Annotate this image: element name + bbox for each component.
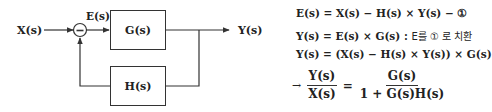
input-label: X(s) (17, 24, 42, 37)
error-label: E(s) (86, 10, 110, 22)
block-diagram: X(s) E(s) G(s) H(s) Y(s) (0, 0, 280, 112)
equals-sign: = (343, 79, 353, 93)
feedback-branch-line (166, 30, 199, 86)
equation-output-math: Y(s) = E(s) × G(s) : (296, 30, 411, 42)
feedback-return-line (80, 38, 110, 86)
lhs-fraction: Y(s) X(s) (306, 69, 337, 102)
rhs-numerator: G(s) (386, 69, 418, 86)
equation-error: E(s) = X(s) − H(s) × Y(s) − ① (296, 7, 467, 19)
rhs-fraction: G(s) 1 + G(s)H(s) (358, 69, 447, 102)
output-label: Y(s) (237, 24, 262, 37)
transfer-function-equation: → Y(s) X(s) = G(s) 1 + G(s)H(s) (292, 69, 449, 102)
equation-substituted: Y(s) = (X(s) − H(s) × Y(s)) × G(s) (296, 48, 492, 60)
equation-output: Y(s) = E(s) × G(s) : E를 ① 로 치환 (296, 28, 472, 43)
forward-block-label: G(s) (125, 24, 151, 37)
equation-output-note: E를 ① 로 치환 (411, 31, 472, 42)
lhs-numerator: Y(s) (307, 69, 338, 86)
rhs-denominator: 1 + G(s)H(s) (358, 86, 447, 102)
arrow-right-icon: → (292, 79, 301, 92)
lhs-denominator: X(s) (306, 86, 337, 102)
feedback-block-label: H(s) (125, 80, 152, 93)
